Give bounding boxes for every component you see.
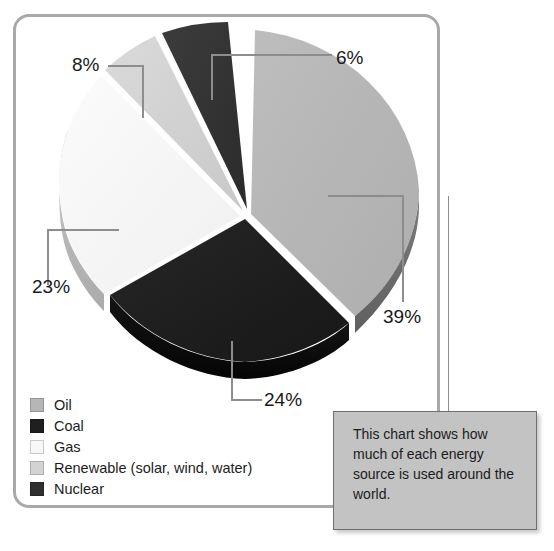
legend-item-coal: Coal [30, 416, 330, 436]
pie-label-nuclear: 6% [336, 47, 363, 69]
pie-label-gas: 23% [32, 276, 70, 298]
note-text: This chart shows how much of each energy… [353, 424, 525, 504]
legend-label-renewable: Renewable (solar, wind, water) [54, 461, 252, 476]
pie-label-renewable: 8% [72, 54, 99, 76]
legend-swatch-coal [30, 419, 44, 433]
legend-swatch-gas [30, 440, 44, 454]
legend-swatch-renewable [30, 461, 44, 475]
pie-label-oil: 39% [383, 306, 421, 328]
note-connector-line [448, 196, 449, 411]
chart-legend: Oil Coal Gas Renewable (solar, wind, wat… [30, 395, 330, 500]
legend-swatch-oil [30, 398, 44, 412]
legend-label-gas: Gas [54, 440, 81, 455]
legend-swatch-nuclear [30, 482, 44, 496]
legend-label-oil: Oil [54, 398, 72, 413]
legend-label-nuclear: Nuclear [54, 482, 104, 497]
legend-item-gas: Gas [30, 437, 330, 457]
note-callout: This chart shows how much of each energy… [333, 411, 537, 530]
legend-item-renewable: Renewable (solar, wind, water) [30, 458, 330, 478]
legend-label-coal: Coal [54, 419, 84, 434]
legend-item-nuclear: Nuclear [30, 479, 330, 499]
chart-page: 6% 39% 24% 23% 8% Oil Coal Gas Renewable… [0, 0, 554, 551]
legend-item-oil: Oil [30, 395, 330, 415]
